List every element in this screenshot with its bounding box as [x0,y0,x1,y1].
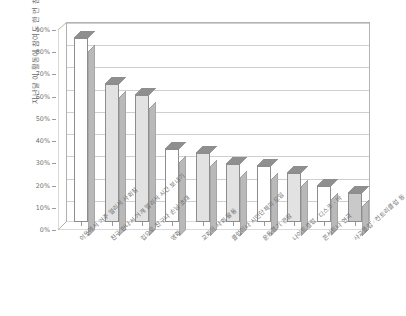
x-tick-label: 클럽이나 시민단체의 모임 [229,190,286,243]
x-tick-label: 영화 [168,228,183,243]
x-tick-label: 나이트클럽 · 디스코 · 바 [290,193,344,243]
x-tick-label: 사교클럽 · 컨트리클럽 등 [351,192,406,243]
